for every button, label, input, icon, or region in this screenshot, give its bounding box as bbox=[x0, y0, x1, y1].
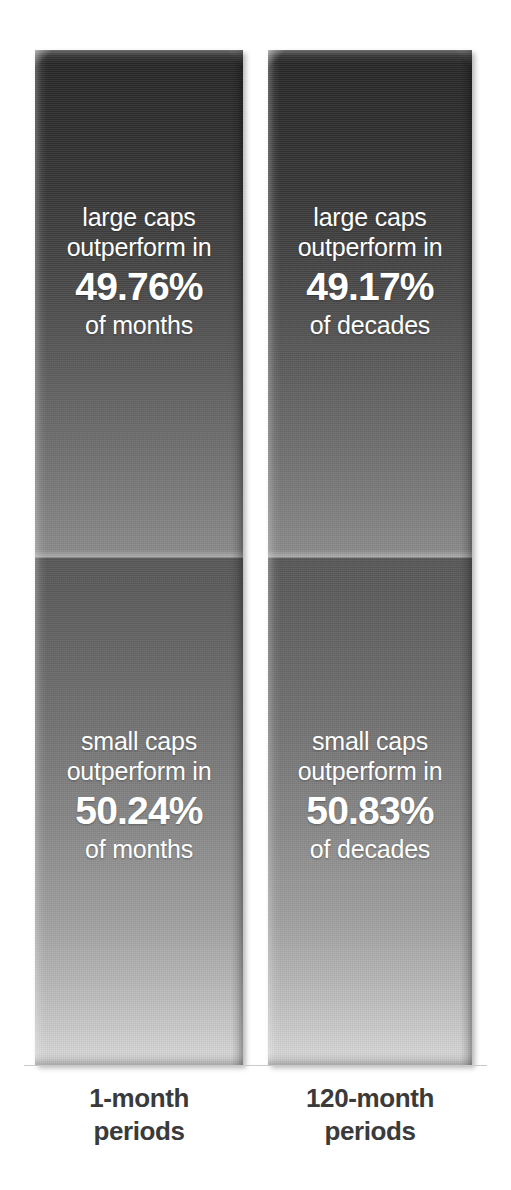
segment-line-1: large caps bbox=[268, 203, 472, 233]
bar-column-1-month[interactable]: large caps outperform in 49.76% of month… bbox=[35, 50, 243, 1065]
segment-value: 50.24% bbox=[35, 788, 243, 834]
bar-stack: large caps outperform in 49.76% of month… bbox=[35, 50, 243, 1065]
bar-segment-large-caps[interactable]: large caps outperform in 49.76% of month… bbox=[35, 50, 243, 557]
segment-line-2: outperform in bbox=[268, 757, 472, 787]
segment-text-block: small caps outperform in 50.83% of decad… bbox=[268, 727, 472, 865]
segment-text-block: large caps outperform in 49.76% of month… bbox=[35, 203, 243, 341]
segment-line-1: small caps bbox=[35, 727, 243, 757]
bar-segment-large-caps[interactable]: large caps outperform in 49.17% of decad… bbox=[268, 50, 472, 557]
segment-line-2: outperform in bbox=[35, 233, 243, 263]
segment-value: 49.17% bbox=[268, 264, 472, 310]
bar-stack: large caps outperform in 49.17% of decad… bbox=[268, 50, 472, 1065]
segment-line-1: large caps bbox=[35, 203, 243, 233]
axis-label-1-month: 1-month periods bbox=[35, 1082, 243, 1149]
axis-label-120-month: 120-month periods bbox=[268, 1082, 472, 1149]
segment-value: 50.83% bbox=[268, 788, 472, 834]
axis-label-row: 1-month periods 120-month periods bbox=[0, 1082, 511, 1182]
segment-line-2: outperform in bbox=[268, 233, 472, 263]
bar-column-120-month[interactable]: large caps outperform in 49.17% of decad… bbox=[268, 50, 472, 1065]
axis-label-line-1: 1-month bbox=[89, 1083, 189, 1113]
segment-line-4: of months bbox=[35, 835, 243, 865]
segment-line-2: outperform in bbox=[35, 757, 243, 787]
segment-text-block: small caps outperform in 50.24% of month… bbox=[35, 727, 243, 865]
bar-segment-small-caps[interactable]: small caps outperform in 50.83% of decad… bbox=[268, 557, 472, 1065]
axis-label-line-2: periods bbox=[35, 1115, 243, 1148]
axis-baseline bbox=[24, 1065, 487, 1066]
segment-text-block: large caps outperform in 49.17% of decad… bbox=[268, 203, 472, 341]
stacked-bar-chart-figure: large caps outperform in 49.76% of month… bbox=[0, 0, 511, 1190]
bar-segment-small-caps[interactable]: small caps outperform in 50.24% of month… bbox=[35, 557, 243, 1065]
axis-label-line-1: 120-month bbox=[306, 1083, 434, 1113]
plot-area: large caps outperform in 49.76% of month… bbox=[0, 0, 511, 1068]
segment-line-4: of months bbox=[35, 311, 243, 341]
axis-label-line-2: periods bbox=[268, 1115, 472, 1148]
segment-line-1: small caps bbox=[268, 727, 472, 757]
segment-value: 49.76% bbox=[35, 264, 243, 310]
segment-line-4: of decades bbox=[268, 835, 472, 865]
segment-line-4: of decades bbox=[268, 311, 472, 341]
